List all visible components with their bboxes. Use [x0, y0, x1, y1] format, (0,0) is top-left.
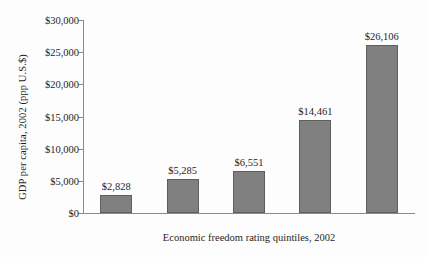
plot-area: $0$5,000$10,000$15,000$20,000$25,000$30,… [83, 20, 415, 213]
y-axis-tick-label: $30,000 [45, 15, 79, 26]
y-axis-tick-label: $25,000 [45, 47, 79, 58]
bar-value-label: $2,828 [102, 181, 131, 192]
y-axis-tick-label: $0 [69, 208, 80, 219]
bar [100, 195, 132, 213]
bar [233, 171, 265, 213]
bar-value-label: $26,106 [365, 31, 399, 42]
y-axis-tick-label: $5,000 [50, 175, 79, 186]
x-axis-title: Economic freedom rating quintiles, 2002 [83, 232, 415, 243]
bar [167, 179, 199, 213]
y-axis-tick-label: $20,000 [45, 79, 79, 90]
bar [366, 45, 398, 213]
y-axis-tick-label: $15,000 [45, 111, 79, 122]
bar [299, 120, 331, 213]
y-axis-tick-label: $10,000 [45, 143, 79, 154]
bar-value-label: $14,461 [298, 106, 332, 117]
bar-value-label: $5,285 [168, 165, 197, 176]
x-axis-line [83, 213, 415, 214]
bar-value-label: $6,551 [235, 157, 264, 168]
y-axis-line [83, 20, 84, 213]
y-axis-title: GDP per capita, 2002 (ppp U.S.$) [17, 27, 35, 227]
chart-figure: GDP per capita, 2002 (ppp U.S.$) $0$5,00… [0, 0, 428, 257]
